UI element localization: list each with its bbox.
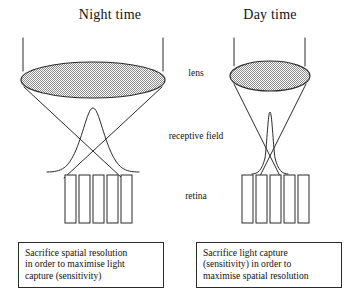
night-retina-receptors <box>65 175 132 223</box>
night-panel-graphics <box>21 38 165 223</box>
night-cone-edge-right <box>64 87 162 178</box>
diagram-canvas: Night time Day time lens receptive field… <box>0 0 350 297</box>
caption-day-line-1: Sacrifice light capture <box>203 247 336 258</box>
caption-day-line-2: (sensitivity) in order to <box>203 258 336 269</box>
night-cone-edge-left <box>24 87 122 178</box>
panel-title-day: Day time <box>210 7 330 23</box>
label-receptive-field-line2: field <box>206 131 223 141</box>
caption-night-line-2: in order to maximise light <box>25 258 158 269</box>
caption-box-night: Sacrifice spatial resolution in order to… <box>18 242 164 288</box>
day-retina-receptors <box>242 175 309 223</box>
panel-title-night: Night time <box>45 7 175 23</box>
day-cone-edge-right <box>259 84 306 178</box>
label-lens: lens <box>168 68 224 78</box>
label-retina: retina <box>168 191 224 201</box>
day-receptive-field-curve <box>252 112 288 174</box>
day-panel-graphics <box>230 38 310 223</box>
caption-night-line-3: capture (sensitivity) <box>25 270 158 281</box>
caption-box-day: Sacrifice light capture (sensitivity) in… <box>196 242 342 288</box>
caption-day-line-3: maximise spatial resolution <box>203 270 336 281</box>
night-receptive-field-curve <box>47 108 139 172</box>
day-lens-ellipse <box>230 61 310 91</box>
label-receptive-field: receptive field <box>164 131 228 142</box>
day-cone-edge-left <box>234 84 281 178</box>
night-lens-ellipse <box>21 62 165 98</box>
caption-night-line-1: Sacrifice spatial resolution <box>25 247 158 258</box>
label-receptive-field-line1: receptive <box>169 131 204 141</box>
